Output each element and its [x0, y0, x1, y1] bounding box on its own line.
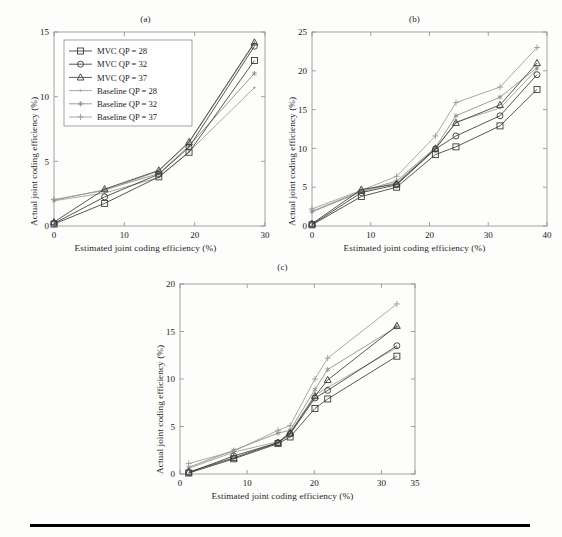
series-plus	[309, 45, 540, 212]
svg-text:Baseline QP = 32: Baseline QP = 32	[97, 99, 157, 109]
svg-text:5: 5	[303, 182, 308, 192]
svg-text:15: 15	[298, 105, 308, 115]
x-axis-title: Estimated joint coding efficiency (%)	[140, 491, 425, 501]
panel-a-plot: 0102030051015MVC QP = 28MVC QP = 32MVC Q…	[18, 14, 273, 272]
series-asterisk	[310, 65, 540, 214]
svg-text:MVC QP = 28: MVC QP = 28	[97, 46, 147, 56]
svg-text:10: 10	[40, 92, 50, 102]
bottom-horizontal-rule	[30, 524, 530, 527]
svg-text:30: 30	[377, 478, 387, 488]
svg-text:10: 10	[298, 144, 308, 154]
svg-text:20: 20	[310, 478, 320, 488]
svg-text:10: 10	[120, 230, 130, 240]
figure-page: (a) 0102030051015MVC QP = 28MVC QP = 32M…	[0, 0, 562, 537]
chart-panel-b: (b) 0102030400510152025 Estimated joint …	[272, 14, 557, 272]
chart-panel-a: (a) 0102030051015MVC QP = 28MVC QP = 32M…	[18, 14, 273, 272]
svg-text:40: 40	[543, 230, 553, 240]
svg-text:0: 0	[178, 478, 183, 488]
y-axis-title: Actual joint coding efficiency (%)	[29, 97, 39, 226]
legend: MVC QP = 28MVC QP = 32MVC QP = 37Baselin…	[64, 40, 192, 126]
y-axis-title: Actual joint coding efficiency (%)	[287, 97, 297, 226]
svg-text:5: 5	[171, 422, 176, 432]
svg-text:20: 20	[166, 279, 176, 289]
chart-panel-c: (c) 01020303505101520 Estimated joint co…	[140, 262, 425, 520]
svg-text:10: 10	[366, 230, 376, 240]
x-axis-title: Estimated joint coding efficiency (%)	[18, 243, 273, 253]
series-circle	[309, 72, 540, 228]
panel-b-plot: 0102030400510152025	[272, 14, 557, 272]
svg-text:30: 30	[484, 230, 494, 240]
svg-text:25: 25	[298, 27, 308, 37]
svg-text:5: 5	[45, 157, 50, 167]
x-axis-title: Estimated joint coding efficiency (%)	[272, 243, 557, 253]
y-axis-title: Actual joint coding efficiency (%)	[155, 345, 165, 474]
series-asterisk	[186, 324, 399, 470]
svg-text:20: 20	[425, 230, 435, 240]
svg-text:0: 0	[45, 221, 50, 231]
svg-text:0: 0	[310, 230, 315, 240]
series-dot	[311, 68, 538, 213]
svg-text:35: 35	[411, 478, 421, 488]
series-triangle	[309, 59, 541, 226]
panel-a-caption: (a)	[18, 14, 273, 24]
svg-text:15: 15	[166, 327, 176, 337]
panel-c-plot: 01020303505101520	[140, 262, 425, 520]
svg-text:0: 0	[52, 230, 57, 240]
svg-text:20: 20	[298, 66, 308, 76]
svg-text:0: 0	[171, 469, 176, 479]
series-plus	[186, 301, 400, 467]
svg-text:20: 20	[190, 230, 200, 240]
svg-text:MVC QP = 37: MVC QP = 37	[97, 73, 148, 83]
panel-b-caption: (b)	[272, 14, 557, 24]
svg-text:10: 10	[243, 478, 253, 488]
svg-text:10: 10	[166, 374, 176, 384]
svg-text:Baseline QP = 28: Baseline QP = 28	[97, 86, 157, 96]
panel-c-caption: (c)	[140, 262, 425, 272]
svg-text:15: 15	[40, 27, 50, 37]
svg-text:MVC QP = 32: MVC QP = 32	[97, 59, 147, 69]
svg-text:30: 30	[261, 230, 271, 240]
svg-text:0: 0	[303, 221, 308, 231]
svg-text:Baseline QP = 37: Baseline QP = 37	[97, 112, 158, 122]
